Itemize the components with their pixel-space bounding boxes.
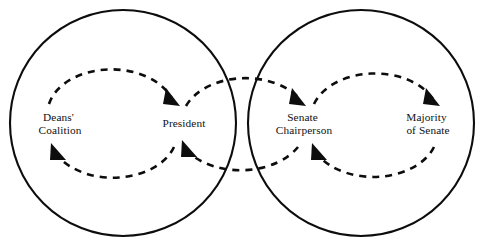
feedback-loop-diagram: Deans' Coalition President Senate Chairp… — [0, 0, 487, 241]
node-label-deans-coalition-line2: Coalition — [39, 124, 82, 136]
loop-arc-president-to-senate-chairperson — [186, 78, 300, 106]
node-label-senate-chairperson-line2: Chairperson — [276, 124, 333, 136]
node-label-deans-coalition-line1: Deans' — [43, 111, 74, 123]
loop-arc-senate-chairperson-to-majority — [314, 73, 433, 104]
diagram-canvas: Deans' Coalition President Senate Chairp… — [0, 0, 487, 241]
loop-arc-president-to-deans — [57, 147, 174, 178]
arrowhead-to-president — [163, 88, 180, 106]
loop-arc-senate-chairperson-to-president — [188, 147, 298, 170]
node-label-majority-of-senate-line2: of Senate — [406, 124, 449, 136]
arrowhead-to-senate-chairperson — [289, 88, 306, 106]
loop-arc-deans-to-president — [49, 69, 172, 104]
arrowhead-to-deans-coalition — [50, 143, 66, 160]
arrowhead-to-senate-chairperson-return — [311, 143, 327, 160]
node-label-president-line1: President — [163, 117, 207, 129]
arrowhead-to-president-return — [181, 140, 197, 157]
node-label-senate-chairperson: Senate Chairperson — [276, 111, 333, 136]
loop-arc-majority-to-senate-chairperson — [318, 147, 434, 177]
right-boundary-circle — [248, 10, 474, 236]
arrowhead-to-majority-of-senate — [423, 88, 440, 106]
node-label-senate-chairperson-line1: Senate — [287, 111, 318, 123]
node-label-majority-of-senate: Majority of Senate — [406, 111, 449, 136]
node-label-president: President — [163, 117, 207, 129]
node-label-deans-coalition: Deans' Coalition — [39, 111, 82, 136]
node-label-majority-of-senate-line1: Majority — [406, 111, 447, 123]
